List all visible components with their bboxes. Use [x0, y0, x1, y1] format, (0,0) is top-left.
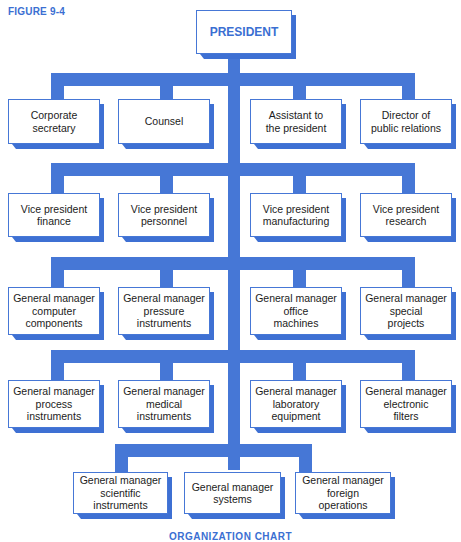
figure-label: FIGURE 9-4	[8, 6, 65, 17]
box-gm-electronic-filters: General manager electronic filters	[360, 380, 452, 428]
row2-drop	[293, 163, 306, 193]
box-vp-personnel: Vice president personnel	[118, 193, 210, 237]
box-president: PRESIDENT	[196, 10, 292, 54]
box-vp-finance: Vice president finance	[8, 193, 100, 237]
row3-drop	[51, 257, 64, 287]
row1-drop	[51, 73, 64, 99]
row3-drop	[402, 257, 415, 287]
chart-caption: ORGANIZATION CHART	[0, 531, 461, 542]
row4-drop	[51, 350, 64, 380]
row4-connector-bar	[51, 350, 415, 363]
box-gm-computer-components: General manager computer components	[8, 287, 100, 335]
box-vp-research: Vice president research	[360, 193, 452, 237]
row3-connector-bar	[51, 257, 415, 270]
row5-drop	[299, 444, 312, 472]
row3-drop	[160, 257, 173, 287]
box-gm-medical-instruments: General manager medical instruments	[118, 380, 210, 428]
box-gm-process-instruments: General manager process instruments	[8, 380, 100, 428]
box-gm-foreign-operations: General manager foreign operations	[295, 472, 391, 514]
box-gm-laboratory-equipment: General manager laboratory equipment	[250, 380, 342, 428]
row5-connector-bar	[115, 444, 312, 457]
row2-drop	[51, 163, 64, 193]
box-gm-scientific-instruments: General manager scientific instruments	[73, 472, 168, 514]
row2-drop	[160, 163, 173, 193]
box-gm-pressure-instruments: General manager pressure instruments	[118, 287, 210, 335]
box-gm-office-machines: General manager office machines	[250, 287, 342, 335]
row1-drop	[402, 73, 415, 99]
row4-drop	[160, 350, 173, 380]
row1-connector-bar	[51, 73, 415, 86]
row1-drop	[160, 73, 173, 99]
box-gm-systems: General manager systems	[184, 472, 281, 514]
row1-drop	[293, 73, 306, 99]
row3-drop	[293, 257, 306, 287]
box-assistant-to-president: Assistant to the president	[250, 99, 342, 144]
box-corporate-secretary: Corporate secretary	[8, 99, 100, 144]
row4-drop	[402, 350, 415, 380]
box-director-public-relations: Director of public relations	[360, 99, 452, 144]
box-counsel: Counsel	[118, 99, 210, 144]
row4-drop	[293, 350, 306, 380]
row2-drop	[402, 163, 415, 193]
row2-connector-bar	[51, 163, 415, 176]
row5-drop	[115, 444, 128, 472]
box-vp-manufacturing: Vice president manufacturing	[250, 193, 342, 237]
box-gm-special-projects: General manager special projects	[360, 287, 452, 335]
